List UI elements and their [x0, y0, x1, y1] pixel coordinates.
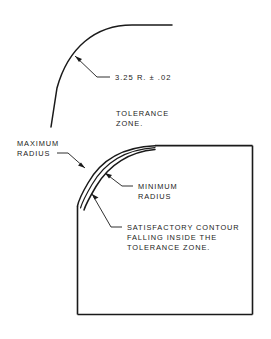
dimension-leader: [75, 56, 110, 77]
maximum-radius-leader: [57, 153, 85, 168]
satisfactory-contour-leader-line: [92, 194, 122, 227]
satisfactory-label-line3: TOLERANCE ZONE.: [127, 243, 210, 252]
satisfactory-contour-arrow-icon: [92, 194, 99, 200]
dimension-radius-label: 3.25 R. ± .02: [115, 73, 171, 82]
engineering-drawing-figure: 3.25 R. ± .02 TOLERANCE ZONE. MAXIMUM RA…: [0, 0, 271, 339]
minimum-radius-leader: [105, 173, 133, 186]
satisfactory-label-line1: SATISFACTORY CONTOUR: [127, 223, 240, 232]
maximum-radius-label-line1: MAXIMUM: [17, 139, 59, 148]
satisfactory-label-line2: FALLING INSIDE THE: [127, 233, 217, 242]
tolerance-zone-label-line1: TOLERANCE: [116, 109, 169, 118]
minimum-radius-label-line1: MINIMUM: [138, 182, 178, 191]
maximum-radius-label-line2: RADIUS: [17, 149, 50, 158]
drawing-canvas: 3.25 R. ± .02 TOLERANCE ZONE. MAXIMUM RA…: [0, 0, 271, 339]
satisfactory-contour-leader: [92, 194, 122, 227]
minimum-radius-label-line2: RADIUS: [138, 192, 171, 201]
tolerance-zone-label-line2: ZONE.: [116, 119, 143, 128]
